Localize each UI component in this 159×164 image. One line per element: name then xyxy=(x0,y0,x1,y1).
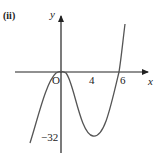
origin-label: O xyxy=(52,75,60,86)
y-axis-label: y xyxy=(50,9,55,20)
tick-label-6: 6 xyxy=(120,75,126,86)
cubic-curve xyxy=(30,24,125,143)
x-axis-label: x xyxy=(148,76,153,87)
tick-label-minus-32: −32 xyxy=(41,132,58,143)
graph-canvas xyxy=(0,0,159,164)
tick-label-4: 4 xyxy=(89,75,95,86)
part-label: (ii) xyxy=(3,11,15,21)
